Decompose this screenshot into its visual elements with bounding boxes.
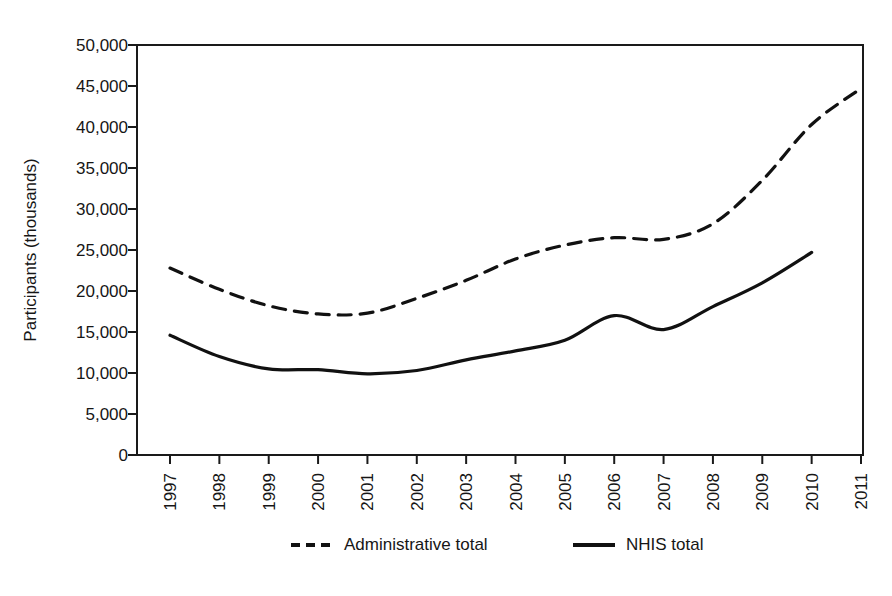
legend-label: Administrative total	[344, 535, 488, 554]
x-tick-label: 2004	[507, 473, 526, 511]
x-tick-label: 1997	[161, 473, 180, 511]
y-tick-label: 10,000	[76, 364, 128, 383]
x-tick-label: 2006	[605, 473, 624, 511]
x-tick-label: 2001	[358, 473, 377, 511]
x-tick-label: 1999	[260, 473, 279, 511]
x-tick-label: 2011	[852, 473, 871, 510]
y-tick-label: 45,000	[76, 77, 128, 96]
legend-item-administrative-total: Administrative total	[291, 535, 488, 554]
x-tick-label: 2008	[704, 473, 723, 511]
y-tick-label: 40,000	[76, 118, 128, 137]
x-tick-label: 2003	[457, 473, 476, 511]
y-tick-label: 35,000	[76, 159, 128, 178]
y-axis-title: Participants (thousands)	[21, 158, 40, 341]
x-axis-tick-marks	[170, 455, 861, 464]
chart-legend: Administrative totalNHIS total	[291, 535, 703, 554]
y-tick-label: 30,000	[76, 200, 128, 219]
x-tick-label: 1998	[210, 473, 229, 511]
plot-area-frame	[137, 45, 863, 455]
y-axis-tick-labels: 05,00010,00015,00020,00025,00030,00035,0…	[76, 36, 128, 465]
legend-label: NHIS total	[626, 535, 703, 554]
legend-item-nhis-total: NHIS total	[573, 535, 703, 554]
y-tick-label: 20,000	[76, 282, 128, 301]
line-chart-figure: Participants (thousands) 05,00010,00015,…	[0, 0, 892, 596]
x-tick-label: 2000	[309, 473, 328, 511]
data-series-group	[170, 88, 861, 373]
x-axis-tick-labels: 1997199819992000200120022003200420052006…	[161, 473, 871, 511]
series-line-administrative-total	[170, 88, 861, 315]
x-tick-label: 2010	[803, 473, 822, 511]
x-tick-label: 2005	[556, 473, 575, 511]
y-axis-tick-marks	[128, 45, 137, 455]
y-tick-label: 15,000	[76, 323, 128, 342]
y-tick-label: 50,000	[76, 36, 128, 55]
x-tick-label: 2002	[408, 473, 427, 511]
y-tick-label: 0	[119, 446, 128, 465]
y-tick-label: 5,000	[85, 405, 128, 424]
x-tick-label: 2007	[655, 473, 674, 511]
y-tick-label: 25,000	[76, 241, 128, 260]
x-tick-label: 2009	[753, 473, 772, 511]
